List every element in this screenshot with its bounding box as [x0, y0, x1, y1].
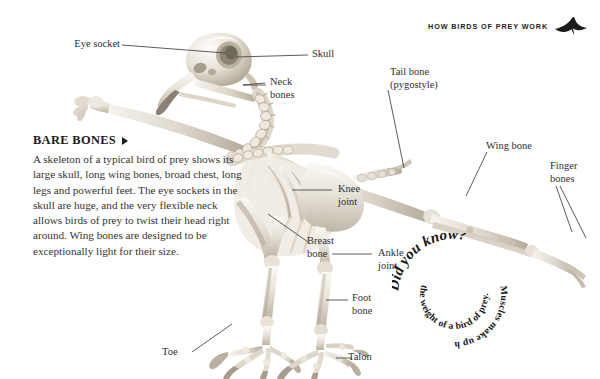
dyk-ring-outer-path: Did you know?	[392, 233, 468, 293]
bare-bones-block: BARE BONES A skeleton of a typical bird …	[33, 133, 248, 259]
callout-wing-bone: Wing bone	[486, 140, 532, 153]
bare-bones-body: A skeleton of a typical bird of prey sho…	[33, 152, 248, 259]
callout-toe: Toe	[162, 346, 178, 359]
right-triangle-icon	[122, 137, 128, 145]
skull-group	[156, 33, 258, 115]
callout-tail-bone: Tail bone (pygostyle)	[390, 66, 438, 91]
callout-knee-joint: Knee joint	[338, 183, 360, 208]
callout-finger-bones: Finger bones	[550, 160, 577, 185]
dyk-ring-outer: Did you know?	[392, 233, 468, 293]
page-root: HOW BIRDS OF PREY WORK	[0, 0, 600, 379]
dyk-ring-inner: the weight of a bird of prey.	[418, 284, 490, 331]
callout-breast-bone: Breast bone	[307, 235, 334, 260]
callout-neck-bones: Neck bones	[270, 76, 295, 101]
bare-bones-heading-text: BARE BONES	[33, 133, 116, 148]
feet-group	[209, 343, 369, 379]
callout-skull: Skull	[312, 48, 334, 61]
did-you-know-roundel: Did you know? Muscles make up half the w…	[392, 233, 516, 357]
callout-foot-bone: Foot bone	[352, 292, 372, 317]
bare-bones-heading: BARE BONES	[33, 133, 248, 148]
callout-talon: Talon	[348, 351, 372, 364]
dyk-ring-inner-path: the weight of a bird of prey.	[418, 284, 490, 331]
callout-eye-socket: Eye socket	[40, 38, 120, 51]
